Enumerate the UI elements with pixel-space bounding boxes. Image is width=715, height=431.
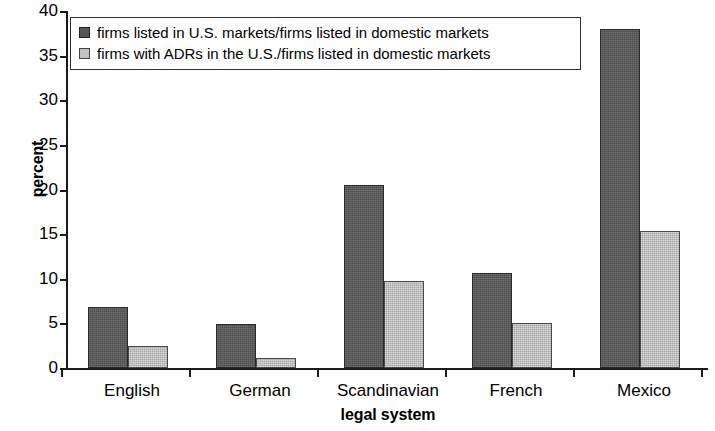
legend-swatch-icon-series-0 [79, 27, 90, 38]
y-axis-tick-mark [60, 323, 67, 325]
x-axis-tick-mark [61, 368, 63, 377]
legend-swatch-icon-series-1 [79, 48, 90, 59]
y-axis-tick-label: 40 [0, 2, 58, 19]
y-axis-tick-label: 20 [0, 181, 58, 198]
bar-french-series-0[interactable] [472, 273, 512, 368]
bar-group [580, 11, 708, 368]
y-axis-tick-label: 5 [0, 314, 58, 331]
bar-german-series-1[interactable] [256, 358, 296, 368]
y-axis-tick-label: 15 [0, 225, 58, 242]
y-axis-tick-mark [60, 145, 67, 147]
x-axis-tick-mark [189, 368, 191, 377]
bar-mexico-series-1[interactable] [640, 231, 680, 368]
x-axis-tick-mark [573, 368, 575, 377]
y-axis-tick-label: 35 [0, 47, 58, 64]
bar-english-series-0[interactable] [88, 307, 128, 368]
x-axis-label-french: French [452, 381, 580, 401]
y-axis-tick-mark [60, 11, 67, 13]
x-axis-line [60, 368, 708, 370]
y-axis-tick-mark [60, 56, 67, 58]
bar-chart: percent 0510152025303540 EnglishGermanSc… [0, 0, 715, 431]
x-axis-title: legal system [68, 406, 708, 424]
y-axis-tick-mark [60, 100, 67, 102]
x-axis-label-english: English [68, 381, 196, 401]
bar-scandinavian-series-1[interactable] [384, 281, 424, 368]
y-axis-tick-mark [60, 234, 67, 236]
bar-mexico-series-0[interactable] [600, 29, 640, 368]
bar-french-series-1[interactable] [512, 323, 552, 368]
y-axis-tick-label: 0 [0, 359, 58, 376]
y-axis-tick-label: 25 [0, 136, 58, 153]
y-axis-tick-mark [60, 190, 67, 192]
x-axis-label-german: German [196, 381, 324, 401]
legend-item-series-0[interactable]: firms listed in U.S. markets/firms liste… [79, 22, 572, 43]
legend-label-series-0: firms listed in U.S. markets/firms liste… [97, 24, 489, 41]
bar-scandinavian-series-0[interactable] [344, 185, 384, 368]
bar-english-series-1[interactable] [128, 346, 168, 368]
legend-item-series-1[interactable]: firms with ADRs in the U.S./firms listed… [79, 43, 572, 64]
y-axis-tick-mark [60, 279, 67, 281]
x-axis-label-scandinavian: Scandinavian [324, 381, 452, 401]
x-axis-tick-mark [445, 368, 447, 377]
y-axis-title: percent [29, 109, 47, 229]
y-axis-tick-label: 30 [0, 91, 58, 108]
x-axis-tick-mark [701, 368, 703, 377]
legend-label-series-1: firms with ADRs in the U.S./firms listed… [97, 45, 490, 62]
y-axis-tick-label: 10 [0, 270, 58, 287]
bar-german-series-0[interactable] [216, 324, 256, 368]
x-axis-label-mexico: Mexico [580, 381, 708, 401]
x-axis-tick-mark [317, 368, 319, 377]
chart-legend: firms listed in U.S. markets/firms liste… [70, 17, 581, 70]
